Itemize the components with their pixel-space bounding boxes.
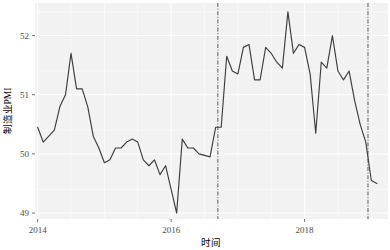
y-axis-title: 制造业PMI <box>2 88 13 135</box>
y-tick-label-51: 51 <box>20 90 29 100</box>
y-tick-label-49: 49 <box>20 208 30 218</box>
y-tick-label-50: 50 <box>20 149 30 159</box>
y-tick-label-52: 52 <box>20 31 29 41</box>
x-axis-title: 时间 <box>201 237 221 248</box>
x-tick-label-2016: 2016 <box>162 225 181 235</box>
x-tick-label-2014: 2014 <box>29 225 48 235</box>
x-tick-label-2018: 2018 <box>296 225 315 235</box>
pmi-line-chart: 49 50 51 52 2014 2016 2018 时间 制造业PMI <box>0 0 390 250</box>
